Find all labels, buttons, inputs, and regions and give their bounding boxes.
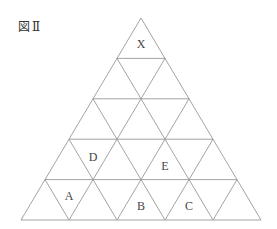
grid-line-diagonal: [213, 180, 237, 220]
grid-line-diagonal: [141, 18, 261, 220]
cell-label-e: E: [161, 159, 168, 173]
cell-label-x: X: [137, 37, 146, 51]
grid-line-diagonal: [117, 99, 189, 220]
cell-label-d: D: [89, 150, 98, 164]
triangle-grid-diagram: XDEABC: [0, 0, 277, 229]
cell-label-b: B: [137, 199, 145, 213]
cell-label-c: C: [185, 199, 193, 213]
grid-line-diagonal: [21, 18, 141, 220]
grid-line-diagonal: [93, 99, 165, 220]
cell-label-a: A: [65, 189, 74, 203]
